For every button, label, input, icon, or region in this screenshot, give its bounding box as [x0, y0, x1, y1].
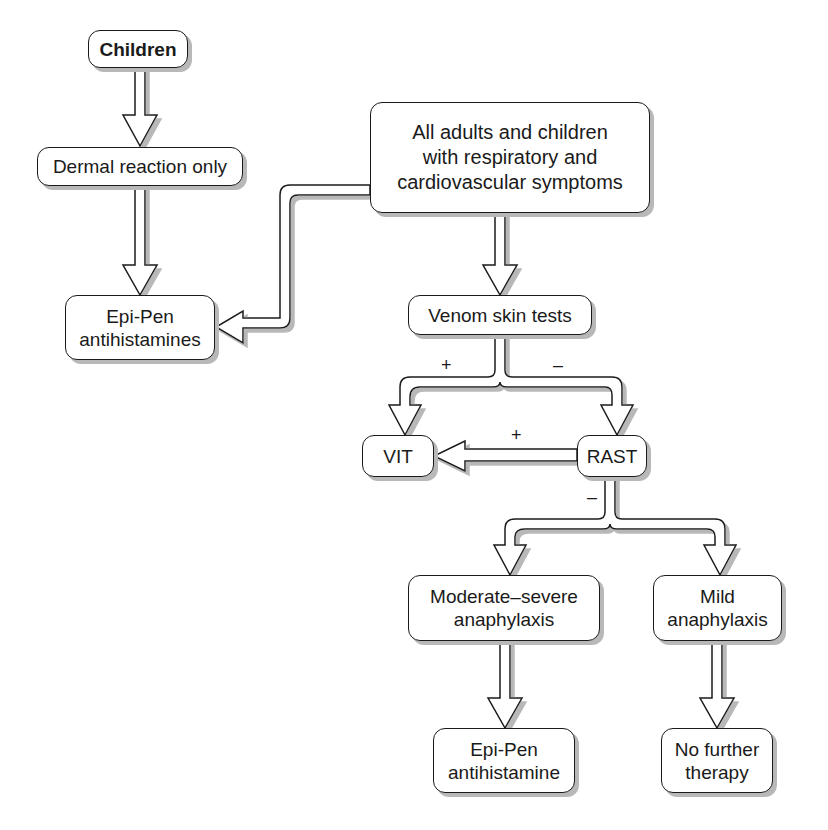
- label-rast-negative: –: [587, 487, 597, 508]
- arrow-dermal-to-epipen: [123, 186, 157, 295]
- arrow-venom-to-vit-rast: [389, 335, 633, 435]
- node-rast: RAST: [577, 435, 647, 477]
- arrow-children-to-dermal: [123, 68, 157, 146]
- node-venom-skin-tests: Venom skin tests: [408, 295, 592, 335]
- node-children: Children: [88, 30, 188, 68]
- arrow-adults-to-venom: [483, 213, 517, 295]
- node-vit: VIT: [362, 435, 434, 477]
- node-epipen-antihistamines: Epi-Pen antihistamines: [65, 295, 215, 360]
- label-skin-positive: +: [441, 355, 452, 376]
- arrow-rast-to-anaphylaxis: [494, 477, 736, 575]
- node-moderate-severe-anaphylaxis: Moderate–severe anaphylaxis: [408, 575, 600, 641]
- arrow-mild-to-nofurther: [700, 641, 734, 728]
- label-skin-negative: –: [553, 355, 563, 376]
- node-mild-anaphylaxis: Mild anaphylaxis: [653, 575, 782, 641]
- node-epipen-antihistamine: Epi-Pen antihistamine: [433, 728, 575, 793]
- flowchart: Children Dermal reaction only Epi-Pen an…: [0, 0, 828, 830]
- node-dermal-reaction: Dermal reaction only: [37, 147, 243, 186]
- arrow-rast-to-vit: [434, 441, 577, 471]
- arrow-adults-to-epipen: [216, 185, 370, 343]
- node-no-further-therapy: No further therapy: [661, 728, 773, 793]
- arrow-moderate-to-epipen: [488, 641, 522, 728]
- node-all-adults-children: All adults and children with respiratory…: [370, 102, 650, 213]
- label-rast-positive: +: [511, 425, 522, 446]
